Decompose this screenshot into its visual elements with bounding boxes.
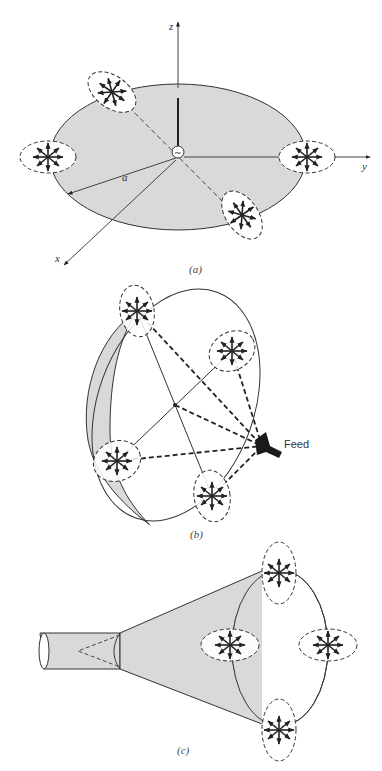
polarization-cluster-bottom [190,467,234,524]
caption-c: (c) [177,744,190,757]
polarization-cluster-left [201,629,259,661]
polarization-cluster-bottom [262,699,296,761]
z-label: z [168,20,174,32]
polarization-cluster-right [299,629,357,661]
source-tilde: ~ [174,148,182,158]
panel-c: (c) [39,542,357,761]
panel-a: z y x a ~ (a) [20,20,370,276]
caption-a: (a) [189,263,202,276]
polarization-cluster-right [279,141,335,173]
panel-b: Feed (b) [62,266,309,545]
polarization-cluster-left [20,141,76,173]
radius-label: a [122,171,128,183]
antenna-polarization-figure: z y x a ~ (a) [0,0,382,771]
polarization-cluster-top [262,542,296,604]
waveguide-end [39,633,49,669]
feed-label: Feed [284,438,309,450]
y-label: y [361,160,367,172]
x-label: x [54,252,60,264]
waveguide [40,633,120,669]
caption-b: (b) [190,528,203,541]
reflector-back-surface [86,311,150,525]
